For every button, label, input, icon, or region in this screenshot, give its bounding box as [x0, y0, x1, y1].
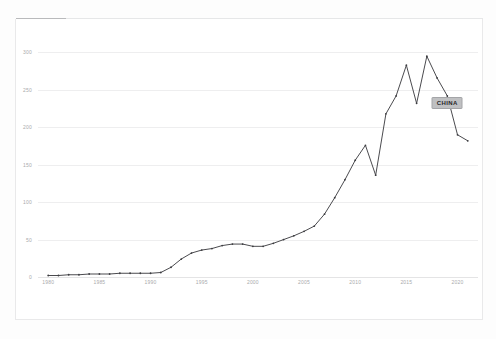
plot-area: 300250200150100500 — [38, 45, 478, 277]
x-tick-label: 2005 — [298, 279, 310, 285]
series-point — [211, 248, 213, 250]
series-point — [283, 239, 285, 241]
series-point — [416, 102, 418, 104]
series-path — [48, 56, 468, 275]
series-point — [139, 272, 141, 274]
series-point — [354, 159, 356, 161]
series-point — [88, 273, 90, 275]
x-tick-label: 2015 — [400, 279, 412, 285]
y-tick-label: 200 — [23, 124, 32, 130]
series-line-china — [38, 45, 478, 277]
series-point — [58, 275, 60, 277]
series-point — [344, 179, 346, 181]
series-point — [324, 213, 326, 215]
x-tick-label: 1980 — [42, 279, 54, 285]
x-axis: 198019851990199520002005201020152020 — [38, 279, 478, 293]
series-point — [47, 275, 49, 277]
series-point — [201, 249, 203, 251]
series-point — [150, 272, 152, 274]
x-tick-label: 2000 — [247, 279, 259, 285]
series-point — [303, 230, 305, 232]
series-point — [436, 77, 438, 79]
series-point — [405, 64, 407, 66]
chart-screenshot: 300250200150100500 198019851990199520002… — [0, 0, 496, 339]
series-point — [180, 258, 182, 260]
x-tick-label: 1995 — [196, 279, 208, 285]
series-point — [129, 272, 131, 274]
series-label-china[interactable]: CHINA — [432, 97, 463, 109]
series-point — [232, 243, 234, 245]
y-tick-label: 300 — [23, 49, 32, 55]
series-point — [365, 144, 367, 146]
y-tick-label: 250 — [23, 87, 32, 93]
series-point — [252, 245, 254, 247]
series-point — [313, 225, 315, 227]
series-point — [109, 273, 111, 275]
series-point — [68, 274, 70, 276]
series-point — [99, 273, 101, 275]
series-point — [221, 245, 223, 247]
y-tick-label: 100 — [23, 199, 32, 205]
y-tick-label: 0 — [29, 274, 32, 280]
gridline-y-0: 0 — [38, 277, 478, 278]
series-point — [160, 272, 162, 274]
y-tick-label: 150 — [23, 162, 32, 168]
series-point — [467, 140, 469, 142]
series-point — [385, 113, 387, 115]
series-point — [262, 245, 264, 247]
series-point — [272, 242, 274, 244]
series-point — [375, 174, 377, 176]
series-point — [78, 274, 80, 276]
series-point — [119, 272, 121, 274]
x-tick-label: 2010 — [349, 279, 361, 285]
series-point — [426, 55, 428, 57]
x-tick-label: 1990 — [145, 279, 157, 285]
series-point — [242, 243, 244, 245]
series-point — [191, 252, 193, 254]
series-point — [395, 95, 397, 97]
series-point — [457, 134, 459, 136]
x-tick-label: 1985 — [93, 279, 105, 285]
series-point — [334, 197, 336, 199]
series-point — [293, 235, 295, 237]
y-tick-label: 50 — [26, 237, 32, 243]
series-point — [170, 266, 172, 268]
x-tick-label: 2020 — [452, 279, 464, 285]
